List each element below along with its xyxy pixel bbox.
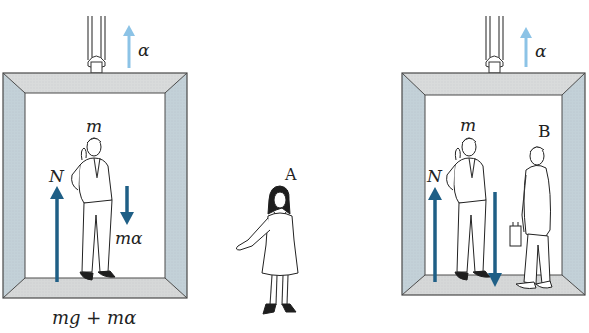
elevator-diagram: α: [0, 0, 589, 333]
right-normal-force-label: N: [426, 166, 443, 186]
right-acceleration-label: α: [535, 41, 547, 61]
observer-a-label: A: [284, 165, 297, 184]
left-acceleration-arrow: [123, 25, 135, 68]
right-elevator: α: [402, 16, 585, 295]
bottom-equation: mg + mα: [52, 307, 136, 328]
left-normal-force-label: N: [48, 166, 65, 186]
left-inertial-force-label: mα: [115, 228, 143, 248]
right-acceleration-arrow: [520, 27, 532, 67]
observer-b-label: B: [538, 121, 551, 141]
left-acceleration-label: α: [138, 40, 150, 60]
left-cable: [88, 16, 105, 73]
right-cable: [486, 16, 503, 73]
right-mass-label: m: [460, 115, 476, 135]
left-elevator: α: [3, 16, 187, 328]
left-mass-label: m: [86, 116, 102, 136]
observer-a: A: [236, 165, 298, 314]
